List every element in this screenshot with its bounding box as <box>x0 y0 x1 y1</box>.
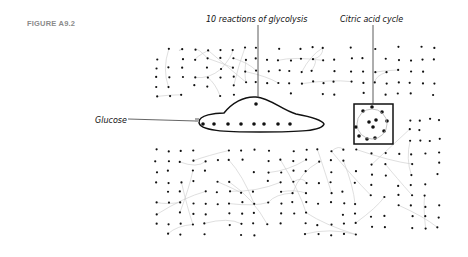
network-nodes <box>154 46 441 237</box>
network-edges <box>157 47 438 234</box>
glucose-entry-node <box>195 118 199 122</box>
glycolysis-outline <box>199 97 324 132</box>
metabolic-network-diagram <box>0 0 468 257</box>
glucose-arrow <box>128 119 196 121</box>
